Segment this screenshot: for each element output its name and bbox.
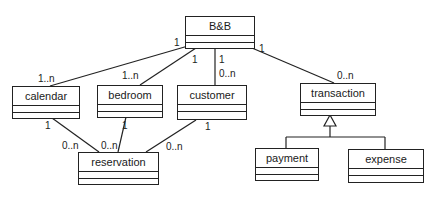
association-bnb-calendar — [50, 46, 188, 86]
class-bnb: B&B — [185, 16, 255, 49]
multiplicity-label: 1 — [205, 122, 211, 132]
multiplicity-label: 1 — [122, 121, 128, 131]
multiplicity-label: 0..n — [101, 141, 118, 151]
operations-compartment — [349, 176, 423, 182]
multiplicity-label: 0..n — [337, 71, 354, 81]
operations-compartment — [98, 112, 162, 118]
class-name: calendar — [13, 87, 79, 106]
class-bedroom: bedroom — [97, 85, 163, 118]
attributes-compartment — [79, 172, 158, 179]
class-name: reservation — [79, 153, 158, 172]
attributes-compartment — [301, 103, 375, 110]
multiplicity-label: 1 — [192, 55, 198, 65]
operations-compartment — [256, 175, 318, 181]
attributes-compartment — [349, 169, 423, 176]
multiplicity-label: 0..n — [219, 69, 236, 79]
class-name: customer — [178, 86, 246, 105]
multiplicity-label: 1..n — [122, 71, 139, 81]
class-payment: payment — [255, 148, 319, 181]
operations-compartment — [186, 43, 254, 49]
multiplicity-label: 0..n — [62, 141, 79, 151]
generalization-triangle-icon — [324, 115, 336, 126]
class-customer: customer — [177, 85, 247, 120]
class-name: transaction — [301, 84, 375, 103]
attributes-compartment — [256, 168, 318, 175]
attributes-compartment — [98, 105, 162, 112]
operations-compartment — [178, 112, 246, 118]
multiplicity-label: 1 — [259, 44, 265, 54]
association-bnb-bedroom — [140, 48, 196, 85]
class-name: bedroom — [98, 86, 162, 105]
attributes-compartment — [13, 106, 79, 113]
class-reservation: reservation — [78, 152, 159, 185]
operations-compartment — [13, 113, 79, 119]
multiplicity-label: 1..n — [38, 74, 55, 84]
attributes-compartment — [186, 36, 254, 43]
multiplicity-label: 1 — [174, 38, 180, 48]
multiplicity-label: 0..n — [166, 142, 183, 152]
multiplicity-label: 1 — [219, 55, 225, 65]
operations-compartment — [79, 179, 158, 185]
class-name: expense — [349, 150, 423, 169]
class-expense: expense — [348, 149, 424, 183]
class-calendar: calendar — [12, 86, 80, 119]
class-name: payment — [256, 149, 318, 168]
operations-compartment — [301, 110, 375, 116]
multiplicity-label: 1 — [45, 121, 51, 131]
class-name: B&B — [186, 17, 254, 36]
attributes-compartment — [178, 105, 246, 112]
class-transaction: transaction — [300, 83, 376, 116]
